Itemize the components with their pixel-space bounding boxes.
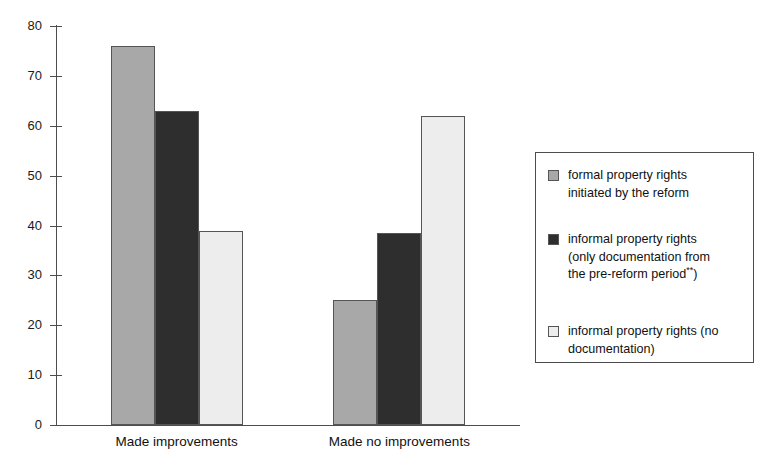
legend-label-line: the pre-reform period**) [568, 266, 748, 284]
bar [377, 233, 421, 425]
bar [199, 231, 243, 426]
plot-area [56, 26, 520, 425]
bar [421, 116, 465, 425]
legend-label-line: formal property rights [568, 167, 748, 185]
legend-label-line: informal property rights [568, 231, 748, 249]
legend-swatch-icon [548, 326, 559, 337]
legend-item-label: formal property rightsinitiated by the r… [568, 167, 748, 202]
legend-item-label: informal property rights (nodocumentatio… [568, 323, 748, 358]
y-axis-tick-mark [50, 425, 62, 426]
legend-item[interactable]: informal property rights (nodocumentatio… [548, 323, 748, 358]
bar [333, 300, 377, 425]
y-axis-tick-label: 20 [8, 318, 42, 331]
y-axis-tick-label: 40 [8, 219, 42, 232]
y-axis-tick-label: 50 [8, 169, 42, 182]
legend-label-line: initiated by the reform [568, 185, 748, 203]
bar [155, 111, 199, 425]
x-axis-line [56, 425, 520, 426]
legend-swatch-icon [548, 234, 559, 245]
legend-label-line: documentation) [568, 341, 748, 359]
x-axis-category-label: Made no improvements [299, 434, 499, 450]
y-axis-tick-label: 60 [8, 119, 42, 132]
y-axis-tick-label: 10 [8, 368, 42, 381]
chart-legend: formal property rightsinitiated by the r… [535, 152, 754, 363]
legend-item[interactable]: informal property rights(only documentat… [548, 231, 748, 284]
legend-footnote-marker: ** [686, 265, 693, 275]
bar [111, 46, 155, 425]
legend-label-line: (only documentation from [568, 249, 748, 267]
legend-label-line: informal property rights (no [568, 323, 748, 341]
bar-chart-figure: 80706050403020100 Made improvementsMade … [0, 0, 774, 470]
y-axis-tick-label: 30 [8, 268, 42, 281]
x-axis-category-label: Made improvements [77, 434, 277, 450]
y-axis-tick-label: 0 [8, 418, 42, 431]
y-axis-tick-label: 80 [8, 19, 42, 32]
legend-item[interactable]: formal property rightsinitiated by the r… [548, 167, 748, 202]
y-axis-tick-label: 70 [8, 69, 42, 82]
legend-item-label: informal property rights(only documentat… [568, 231, 748, 284]
legend-swatch-icon [548, 170, 559, 181]
